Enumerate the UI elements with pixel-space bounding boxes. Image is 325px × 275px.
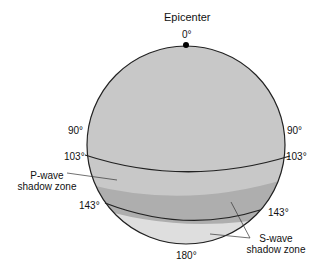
- label-103-left: 103°: [64, 151, 85, 162]
- label-143-left: 143°: [79, 200, 100, 211]
- label-143-right: 143°: [268, 207, 289, 218]
- s-wave-label-line1: S-wave: [242, 233, 310, 244]
- label-180-deg: 180°: [176, 250, 197, 261]
- s-wave-label-line2: shadow zone: [242, 244, 310, 255]
- p-wave-label: P-wave shadow zone: [14, 170, 80, 192]
- label-103-right: 103°: [286, 151, 307, 162]
- s-wave-label: S-wave shadow zone: [242, 233, 310, 255]
- label-0-deg: 0°: [182, 29, 192, 40]
- p-wave-label-line1: P-wave: [14, 170, 80, 181]
- shadow-zone-diagram: Epicenter 0° 90° 90° 103° 103° P-wave sh…: [0, 0, 325, 275]
- label-90-right: 90°: [287, 125, 302, 136]
- epicenter-title: Epicenter: [164, 12, 210, 23]
- label-90-left: 90°: [68, 125, 83, 136]
- epicenter-dot: [183, 42, 189, 48]
- p-wave-label-line2: shadow zone: [14, 181, 80, 192]
